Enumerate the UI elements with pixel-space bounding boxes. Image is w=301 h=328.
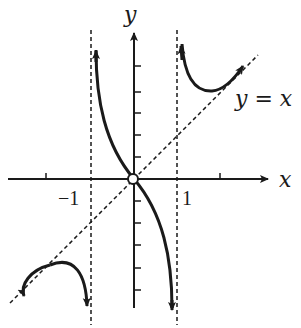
curve-right-top-arrow	[181, 46, 182, 60]
curve-right-branch	[182, 44, 243, 91]
tick-label-1: 1	[182, 187, 192, 209]
tick-label-neg1: −1	[58, 187, 79, 209]
hole-at-origin	[128, 174, 138, 184]
asymptote-label: y = x	[234, 86, 293, 111]
curve-left-branch-down	[50, 262, 87, 306]
y-axis-label: y	[123, 2, 137, 27]
graph: y x −1 1 y = x	[0, 0, 301, 328]
x-axis-label: x	[279, 167, 292, 192]
curve-left-branch	[23, 265, 50, 296]
